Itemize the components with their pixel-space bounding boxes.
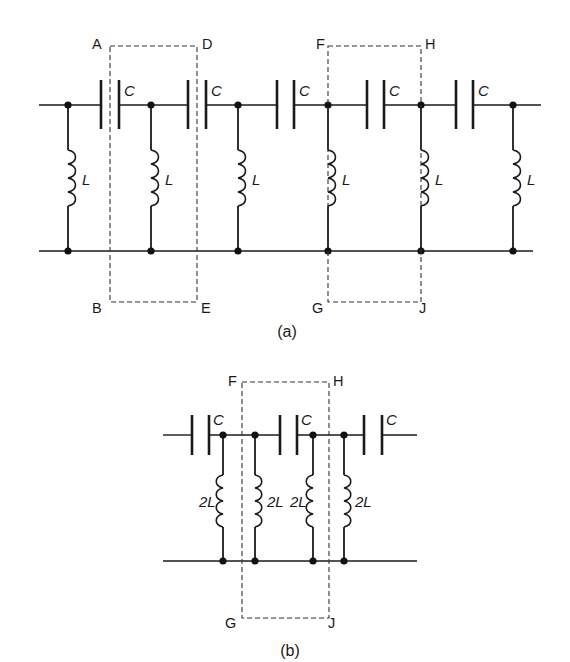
capacitor-label: C (389, 82, 400, 99)
capacitor-label: C (301, 411, 312, 428)
capacitor-label: C (386, 411, 397, 428)
inductor-a-1: L (68, 105, 90, 251)
inductor-a-5: L (421, 105, 443, 251)
corner-label-g: G (225, 615, 236, 631)
inductor-a-3: L (238, 105, 260, 251)
inductor-label: 2L (266, 493, 284, 510)
inductor-label: L (252, 171, 260, 188)
caption-b: (b) (280, 642, 300, 659)
inductor-b-1: 2L (198, 435, 223, 561)
corner-label-b: B (92, 300, 102, 316)
inductor-label: L (82, 171, 90, 188)
caption-a: (a) (277, 323, 297, 340)
corner-label-h: H (425, 36, 435, 52)
inductor-label: L (342, 171, 350, 188)
inductor-label: L (435, 171, 443, 188)
corner-label-f: F (316, 36, 325, 52)
corner-label-g: G (312, 300, 323, 316)
inductor-label: L (165, 171, 173, 188)
ladder-network-figure: C C C C C L (0, 0, 570, 662)
inductor-label: 2L (289, 493, 307, 510)
capacitor-b-2: C (280, 411, 312, 455)
inductor-a-2: L (151, 105, 173, 251)
corner-label-h: H (333, 373, 343, 389)
diagram-b: C C C 2L 2L 2L (163, 373, 417, 659)
capacitor-label: C (478, 82, 489, 99)
inductor-b-4: 2L (344, 435, 372, 561)
capacitor-label: C (124, 82, 135, 99)
corner-label-j: J (328, 615, 335, 631)
diagram-a: C C C C C L (39, 36, 541, 340)
inductor-a-6: L (513, 105, 535, 251)
capacitor-label: C (211, 82, 222, 99)
section-box-fhjg-a: F H G J (312, 36, 435, 316)
inductor-label: L (527, 171, 535, 188)
corner-label-a: A (92, 36, 102, 52)
corner-label-e: E (201, 300, 211, 316)
inductor-label: 2L (198, 493, 216, 510)
capacitor-label: C (299, 82, 310, 99)
inductor-label: 2L (354, 493, 372, 510)
capacitor-b-3: C (364, 411, 397, 455)
corner-label-f: F (228, 373, 237, 389)
corner-label-j: J (419, 300, 426, 316)
inductor-b-3: 2L (289, 435, 313, 561)
capacitor-b-1: C (192, 411, 224, 455)
capacitor-label: C (213, 411, 224, 428)
inductor-a-4: L (328, 105, 350, 251)
corner-label-d: D (202, 36, 212, 52)
section-box-adeb: A D B E (92, 36, 212, 316)
section-box-fhjg-b: F H G J (225, 373, 343, 631)
junction-nodes-a (64, 101, 516, 254)
